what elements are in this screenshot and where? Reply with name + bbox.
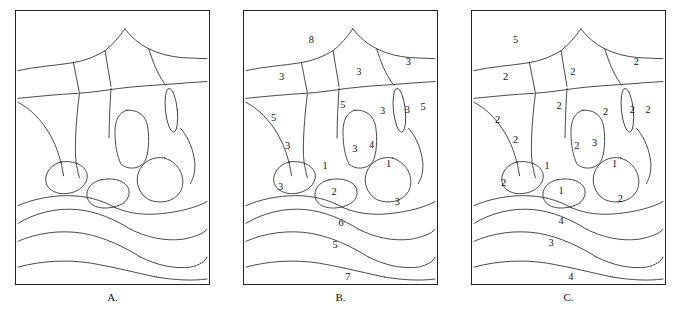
region-label: 2	[556, 100, 561, 111]
region-label: 2	[501, 177, 506, 188]
panel-b-drawing: 83335335533411323657	[244, 11, 437, 284]
figure-container: 83335335533411323657	[0, 0, 681, 317]
region-label: 2	[495, 114, 500, 125]
panel-c-labels: 52222222222311212434	[495, 34, 651, 282]
region-label: 2	[603, 106, 608, 117]
region-label: 4	[568, 271, 574, 282]
region-label: 2	[646, 104, 651, 115]
region-label: 5	[271, 112, 276, 123]
region-label: 3	[279, 71, 284, 82]
region-label: 5	[340, 99, 345, 110]
region-label: 3	[285, 140, 290, 151]
region-label: 5	[332, 239, 337, 250]
region-label: 3	[395, 196, 400, 207]
region-label: 2	[574, 140, 579, 151]
region-label: 2	[618, 193, 623, 204]
region-label: 3	[352, 143, 357, 154]
region-label: 1	[386, 158, 391, 169]
region-label: 2	[630, 104, 635, 115]
panel-a-drawing	[16, 11, 209, 284]
caption-panel-c: C.	[471, 291, 666, 303]
region-label: 3	[278, 181, 283, 192]
region-label: 2	[634, 56, 639, 67]
region-label: 2	[331, 186, 336, 197]
region-label: 8	[309, 34, 314, 45]
panel-b: 83335335533411323657	[243, 10, 438, 285]
region-label: 1	[612, 158, 617, 169]
region-label: 3	[405, 104, 410, 115]
region-label: 3	[356, 66, 361, 77]
region-label: 3	[592, 137, 597, 148]
region-label: 5	[421, 101, 426, 112]
panel-a	[15, 10, 210, 285]
panel-b-labels: 83335335533411323657	[271, 34, 426, 282]
panel-c: 52222222222311212434	[471, 10, 666, 285]
region-label: 1	[323, 160, 328, 171]
panel-c-drawing: 52222222222311212434	[472, 11, 665, 284]
caption-panel-a: A.	[15, 291, 210, 303]
region-label: 2	[570, 66, 575, 77]
region-label: 5	[513, 34, 518, 45]
region-label: 3	[549, 237, 554, 248]
region-label: 1	[545, 160, 550, 171]
region-label: 7	[345, 271, 350, 282]
region-label: 3	[406, 56, 411, 67]
region-label: 2	[513, 134, 518, 145]
region-label: 2	[503, 71, 508, 82]
region-label: 6	[338, 217, 343, 228]
region-label: 1	[558, 185, 563, 196]
caption-panel-b: B.	[243, 291, 438, 303]
region-label: 4	[369, 139, 375, 150]
region-label: 4	[558, 215, 564, 226]
region-label: 3	[380, 105, 385, 116]
